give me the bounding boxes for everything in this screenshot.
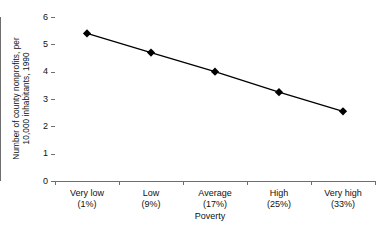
data-point-marker (275, 88, 283, 96)
data-point-marker (147, 48, 155, 56)
data-series-layer (0, 0, 388, 231)
data-point-marker (83, 29, 91, 37)
data-point-marker (339, 107, 347, 115)
data-point-marker (211, 68, 219, 76)
chart-container: Number of county nonprofits, per 10,000 … (0, 0, 388, 231)
series-markers (83, 29, 347, 115)
